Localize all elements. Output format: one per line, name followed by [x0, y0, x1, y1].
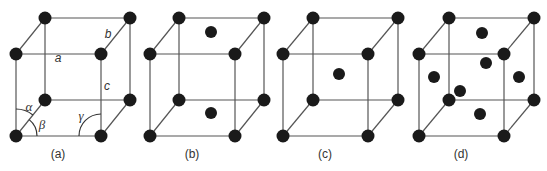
panel-label-b: (b) [185, 147, 200, 161]
lattice-atom-corner [173, 94, 186, 107]
lattice-atom-corner [229, 130, 242, 143]
lattice-atom-corner [144, 130, 157, 143]
unit-cell-d: (d) [413, 12, 541, 162]
beta-angle-arc [29, 120, 37, 136]
cell-edge [419, 18, 449, 54]
cell-edge [150, 100, 179, 136]
lattice-atom-corner [229, 48, 242, 61]
cell-edge [368, 100, 398, 136]
lattice-atom-corner [413, 130, 426, 143]
lattice-atom-corner [307, 94, 320, 107]
lattice-atom-corner [362, 48, 375, 61]
lattice-atom-interior [474, 108, 486, 120]
lattice-atom-interior [333, 68, 345, 80]
lattice-atom-corner [392, 94, 405, 107]
lattice-atom-corner [144, 48, 157, 61]
angle-beta-label: β [38, 117, 46, 132]
lattice-atom-interior [454, 85, 466, 97]
lattice-atom-corner [413, 48, 426, 61]
lattice-atom-corner [443, 94, 456, 107]
panel-label-d: (d) [454, 147, 469, 161]
lattice-atom-interior [513, 71, 525, 83]
cell-edge [283, 18, 313, 54]
lattice-param-c: c [104, 79, 110, 93]
lattice-atom-corner [258, 12, 271, 25]
lattice-param-a: a [55, 51, 62, 65]
unit-cell-c: (c) [277, 12, 405, 162]
angle-alpha-label: α [26, 99, 34, 114]
lattice-atom-corner [10, 48, 23, 61]
lattice-param-b: b [105, 27, 112, 41]
lattice-atom-corner [258, 94, 271, 107]
lattice-atom-corner [528, 94, 541, 107]
cell-edge [235, 100, 264, 136]
cell-edge [283, 100, 313, 136]
lattice-atom-interior [476, 27, 488, 39]
angle-gamma-label: γ [78, 108, 84, 123]
lattice-atom-corner [124, 94, 137, 107]
lattice-atom-corner [392, 12, 405, 25]
lattice-atom-corner [498, 130, 511, 143]
lattice-atom-corner [95, 130, 108, 143]
cell-edge [419, 100, 449, 136]
cell-edge [101, 100, 130, 136]
lattice-atom-corner [528, 12, 541, 25]
lattice-atom-interior [205, 107, 217, 119]
cell-edge [150, 18, 179, 54]
lattice-atom-corner [10, 130, 23, 143]
lattice-atom-interior [205, 26, 217, 38]
lattice-atom-corner [307, 12, 320, 25]
lattice-atom-interior [480, 57, 492, 69]
lattice-atom-corner [173, 12, 186, 25]
unit-cell-b: (b) [144, 12, 271, 162]
lattice-atom-corner [277, 48, 290, 61]
lattice-atom-corner [39, 12, 52, 25]
panel-label-c: (c) [318, 147, 332, 161]
lattice-atom-corner [95, 48, 108, 61]
crystal-lattice-figure: abcαβγ(a)(b)(c)(d) [0, 0, 547, 171]
cell-edge [504, 18, 534, 54]
lattice-atom-corner [362, 130, 375, 143]
cell-edge [16, 18, 45, 54]
lattice-atom-corner [443, 12, 456, 25]
cell-edge [368, 18, 398, 54]
lattice-atom-corner [39, 94, 52, 107]
lattice-atom-corner [124, 12, 137, 25]
cell-edge [504, 100, 534, 136]
panel-label-a: (a) [51, 147, 66, 161]
lattice-atom-interior [428, 71, 440, 83]
unit-cell-a: abcαβγ(a) [10, 12, 137, 162]
cell-edge [235, 18, 264, 54]
lattice-atom-corner [498, 48, 511, 61]
lattice-atom-corner [277, 130, 290, 143]
